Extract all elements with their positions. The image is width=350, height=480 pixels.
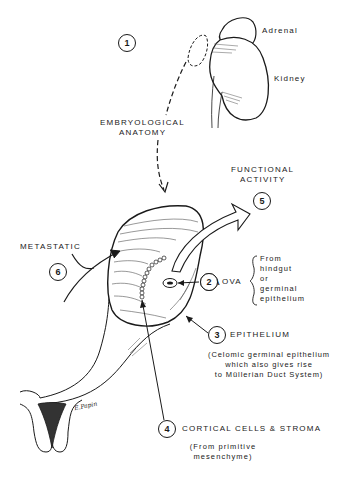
ova-origin: From hindgut or germinal epithelium [260,254,305,304]
cortical-note-line: (From primitive [178,442,268,452]
uterine-cavity [38,403,66,449]
marker-2-circle: 2 [200,273,218,291]
descent-arrowhead [159,182,168,192]
ova-label: OVA [222,277,242,286]
embryological-label-line2: ANATOMY [119,128,166,137]
epithelium-leader-head [186,316,193,323]
embryological-label-line1: EMBRYOLOGICAL [100,118,185,127]
adrenal-label: Adrenal [262,26,298,35]
kidney-label: Kidney [274,74,306,83]
ova-brace [250,256,257,305]
kidney [210,37,269,120]
functional-label-line2: ACTIVITY [240,175,286,184]
primitive-gonad-dashed [188,35,208,66]
ova-origin-line: or [260,274,305,284]
ova-origin-line: epithelium [260,294,305,304]
marker-6: 6 [49,263,67,281]
marker-5: 5 [253,192,271,210]
epithelium-note-line: which also gives rise [186,360,350,370]
epithelium-label: EPITHELIUM [230,330,290,339]
ovary [108,206,204,326]
cortical-note-line: mesenchyme) [178,452,268,462]
ova-origin-line: hindgut [260,264,305,274]
cortical-label: CORTICAL CELLS & STROMA [182,424,321,433]
fallopian-tube [40,290,110,398]
epithelium-note-line: to Müllerian Duct System) [186,370,350,380]
metastatic-arc [72,254,94,269]
marker-4: 4 [158,420,176,438]
ova-origin-line: germinal [260,284,305,294]
ovary-anatomy-illustration [0,0,350,480]
metastatic-label: METASTATIC [20,242,81,251]
marker-3: 3 [208,326,226,344]
cortical-note: (From primitive mesenchyme) [178,442,268,462]
ova-origin-line: From [260,254,305,264]
ureter-2 [218,92,222,128]
marker-1: 1 [118,34,136,52]
epithelium-note: (Celomic germinal epithelium which also … [186,350,350,380]
functional-label-line1: FUNCTIONAL [231,165,294,174]
ovum-nucleus [167,281,173,284]
epithelium-note-line: (Celomic germinal epithelium [186,350,350,360]
